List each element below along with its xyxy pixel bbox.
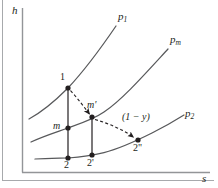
curve-label-p2-subscript: 2 xyxy=(191,112,195,121)
point-label-m: m xyxy=(53,121,60,131)
dashed-arrow-mprime-to-2pp xyxy=(95,120,134,138)
curve-label-pm-main: p xyxy=(170,33,176,45)
curve-label-pm-subscript: m xyxy=(176,38,181,47)
x-axis-label: s xyxy=(202,173,206,184)
marker-point-1 xyxy=(65,85,70,90)
point-label-2: 2 xyxy=(64,160,69,170)
curve-pm xyxy=(31,49,168,142)
curve-label-p1-subscript: 1 xyxy=(124,15,128,24)
curve-label-p1: p1 xyxy=(118,11,127,22)
curve-p1 xyxy=(29,26,116,119)
state-point-markers xyxy=(65,85,140,160)
curve-label-p2-main: p xyxy=(185,107,191,119)
annotation-remaining-fraction: (1 − y) xyxy=(122,112,150,122)
axes xyxy=(22,8,210,173)
marker-point-m xyxy=(65,125,70,130)
marker-point-mprime xyxy=(89,114,94,119)
diagram-canvas xyxy=(0,0,218,188)
curve-label-p2: p2 xyxy=(185,108,194,119)
y-axis-label: h xyxy=(12,5,18,16)
point-label-2doubleprime: 2" xyxy=(133,143,142,153)
point-label-1: 1 xyxy=(60,72,65,82)
point-label-mprime: m' xyxy=(87,100,96,110)
curve-label-p1-main: p xyxy=(118,10,124,22)
figure-frame xyxy=(2,0,214,181)
hs-diagram-figure: h s p1 pm p2 1 m 2 m' 2' 2" (1 − y) xyxy=(0,0,218,188)
point-label-2prime: 2' xyxy=(87,158,94,168)
pressure-curves xyxy=(29,26,184,159)
curve-label-pm: pm xyxy=(170,34,181,45)
